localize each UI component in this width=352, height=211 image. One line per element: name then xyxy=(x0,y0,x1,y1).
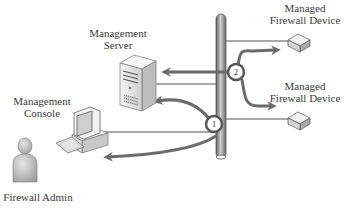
firewall-admin-label: Firewall Admin xyxy=(0,191,76,203)
managed-device-bottom-label: Managed Firewall Device xyxy=(262,80,348,104)
management-console-label: Management Console xyxy=(6,95,78,119)
arrow-step2-to-device-top xyxy=(238,50,276,66)
firewall-appliance-icon xyxy=(288,34,310,52)
arrow-step1-to-server xyxy=(158,100,210,120)
arrow-step1-to-console xyxy=(108,136,216,157)
managed-device-top-label: Managed Firewall Device xyxy=(262,2,348,26)
label-line: Management xyxy=(82,27,154,39)
step-1-number: 1 xyxy=(209,118,219,130)
server-tower-icon xyxy=(120,55,156,111)
label-line: Firewall Device xyxy=(262,14,348,26)
label-line: Console xyxy=(6,107,78,119)
label-line: Management xyxy=(6,95,78,107)
person-icon xyxy=(13,138,37,182)
network-backbone-icon xyxy=(216,14,226,159)
management-server-label: Management Server xyxy=(82,27,154,51)
firewall-appliance-icon xyxy=(288,112,310,130)
label-line: Managed xyxy=(262,80,348,92)
step-2-number: 2 xyxy=(231,66,241,78)
label-line: Managed xyxy=(262,2,348,14)
label-line: Server xyxy=(82,39,154,51)
label-line: Firewall Device xyxy=(262,92,348,104)
